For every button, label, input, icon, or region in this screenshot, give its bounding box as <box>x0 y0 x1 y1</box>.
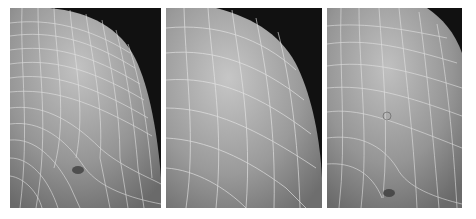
mesh-render-panel-2 <box>166 8 322 208</box>
mesh-surface-dense <box>10 8 161 208</box>
mesh-surface-coarse <box>166 8 322 208</box>
mesh-render-panel-1 <box>10 8 161 208</box>
mesh-surface-medium <box>327 8 462 208</box>
mesh-render-panel-3 <box>327 8 462 208</box>
